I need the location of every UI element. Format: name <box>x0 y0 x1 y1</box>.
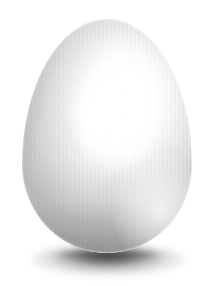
egg-specular-highlight <box>73 61 161 169</box>
egg-scene: Egg <box>0 0 216 286</box>
egg-body <box>22 19 192 253</box>
